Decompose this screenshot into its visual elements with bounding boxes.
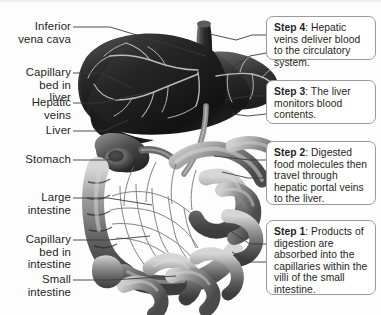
leader-capillary-bed-intestine [73,236,150,240]
callout-step-1-title: Step 1 [274,226,305,237]
callout-step-4: Step 4: Hepatic veins deliver blood to t… [266,16,376,60]
label-capillary-bed-in-intestine: Capillary bed in intestine [0,233,71,271]
label-liver: Liver [0,124,71,137]
label-stomach: Stomach [0,153,71,166]
capillary-bed-mesh [110,162,200,264]
callout-step-2-title: Step 2 [274,147,305,158]
label-hepatic-veins: Hepatic veins [0,96,71,121]
label-large-intestine: Large intestine [0,191,71,216]
liver-organ [78,34,278,144]
leader-step-3b [232,114,266,116]
callout-step-4-title: Step 4 [274,22,305,33]
label-inferior-vena-cava: Inferior vena cava [0,20,71,45]
label-small-intestine: Small intestine [0,273,71,298]
callout-step-1: Step 1: Products of digestion are absorb… [266,220,376,295]
figure-canvas: Inferior vena cava Capillary bed in live… [0,0,381,315]
callout-step-3: Step 3: The liver monitors blood content… [266,80,376,124]
leader-step-4 [210,34,266,40]
callout-step-3-title: Step 3 [274,86,305,97]
callout-step-2: Step 2: Digested food molecules then tra… [266,141,376,205]
